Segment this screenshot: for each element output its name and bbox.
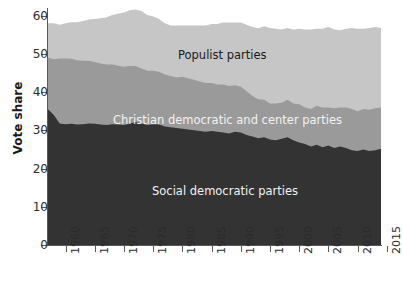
y-tick-label: 60: [12, 10, 48, 22]
x-tick-mark: [241, 246, 242, 252]
x-tick-mark: [153, 246, 154, 252]
x-tick-label: 1975: [157, 226, 168, 254]
x-tick-label: 2000: [303, 226, 314, 254]
x-tick-mark: [358, 246, 359, 252]
x-tick-label: 2015: [391, 226, 402, 254]
x-tick-mark: [387, 246, 388, 252]
x-tick-label: 1990: [245, 226, 256, 254]
x-tick-mark: [270, 246, 271, 252]
x-tick-mark: [328, 246, 329, 252]
x-tick-label: 1960: [70, 226, 81, 254]
x-tick-label: 1970: [128, 226, 139, 254]
series-label-christian-democratic: Christian democratic and center parties: [113, 115, 342, 127]
series-label-populist: Populist parties: [178, 50, 267, 62]
x-tick-mark: [124, 246, 125, 252]
y-tick-label: 0: [12, 239, 48, 251]
series-label-social-democratic: Social democratic parties: [152, 186, 298, 198]
x-tick-mark: [66, 246, 67, 252]
x-tick-label: 2005: [332, 226, 343, 254]
x-tick-mark: [299, 246, 300, 252]
x-tick-mark: [182, 246, 183, 252]
y-axis-title: Vote share: [12, 74, 24, 162]
x-tick-mark: [212, 246, 213, 252]
x-tick-label: 1985: [216, 226, 227, 254]
y-tick-label: 10: [12, 201, 48, 213]
y-tick-label: 20: [12, 163, 48, 175]
series-layers: [48, 10, 381, 245]
x-tick-label: 2010: [362, 226, 373, 254]
y-tick-label: 50: [12, 48, 48, 60]
x-tick-label: 1965: [99, 226, 110, 254]
x-tick-label: 1995: [274, 226, 285, 254]
x-tick-mark: [95, 246, 96, 252]
x-tick-label: 1980: [186, 226, 197, 254]
